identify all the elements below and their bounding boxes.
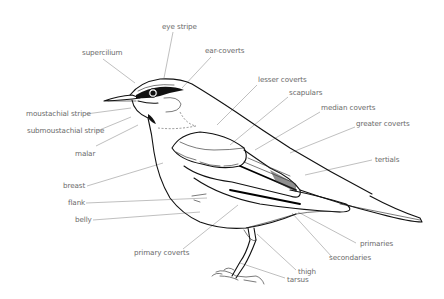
label-malar: malar xyxy=(75,150,95,158)
label-supercilium: supercilium xyxy=(82,49,122,57)
label-tarsus: tarsus xyxy=(287,276,309,284)
label-scapulars: scapulars xyxy=(289,89,322,97)
label-lesser-coverts: lesser coverts xyxy=(258,76,307,84)
label-tertials: tertials xyxy=(375,156,399,164)
leader-lines xyxy=(86,32,372,278)
label-breast: breast xyxy=(63,182,85,190)
label-moustachial-stripe: moustachial stripe xyxy=(26,110,91,118)
label-submoustachial-stripe: submoustachial stripe xyxy=(27,127,104,135)
bird-illustration xyxy=(0,0,444,299)
label-secondaries: secondaries xyxy=(329,254,371,262)
label-primary-coverts: primary coverts xyxy=(134,249,189,257)
label-greater-coverts: greater coverts xyxy=(356,120,410,128)
label-ear-coverts: ear-coverts xyxy=(205,47,244,55)
label-eye-stripe: eye stripe xyxy=(162,23,197,31)
label-belly: belly xyxy=(75,216,92,224)
label-primaries: primaries xyxy=(360,240,393,248)
bird-anatomy-diagram: eye stripe supercilium ear-coverts lesse… xyxy=(0,0,444,299)
label-median-coverts: median coverts xyxy=(321,104,375,112)
label-flank: flank xyxy=(68,199,85,207)
